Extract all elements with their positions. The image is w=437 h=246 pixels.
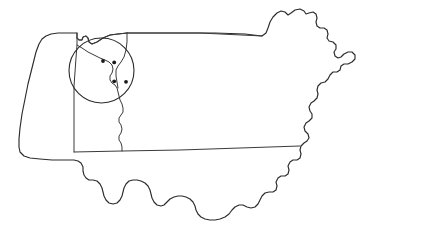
site-dot-3	[112, 79, 116, 83]
site-dot-2	[112, 61, 116, 65]
study-area-circle	[69, 38, 134, 103]
state-outline-massachusetts	[19, 9, 355, 220]
massachusetts-map-figure	[0, 0, 437, 246]
county-line-worcester-western-boundary	[116, 33, 127, 88]
site-markers	[101, 59, 128, 84]
map-canvas	[0, 0, 437, 246]
site-dot-4	[124, 80, 128, 84]
county-boundaries	[74, 33, 300, 152]
county-line-southern-county-line	[74, 146, 300, 152]
site-dot-1	[101, 59, 105, 63]
